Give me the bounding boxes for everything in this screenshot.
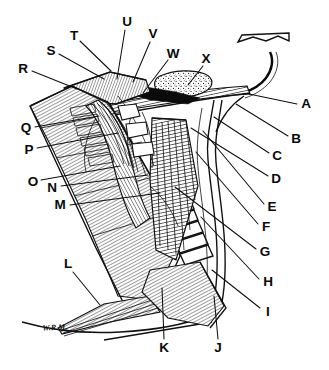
anatomical-figure: A B C D E F G H I J K L M N O P Q R S T … bbox=[0, 0, 329, 370]
label-F: F bbox=[262, 219, 270, 234]
label-O: O bbox=[28, 174, 39, 189]
label-J: J bbox=[214, 340, 222, 355]
label-N: N bbox=[47, 180, 57, 195]
highlight-patch-3 bbox=[132, 142, 154, 157]
label-G: G bbox=[260, 244, 271, 259]
label-L: L bbox=[64, 256, 72, 271]
label-C: C bbox=[272, 148, 282, 163]
label-T: T bbox=[70, 28, 79, 43]
label-E: E bbox=[267, 199, 276, 214]
label-Q: Q bbox=[21, 120, 32, 135]
label-P: P bbox=[24, 142, 33, 157]
label-B: B bbox=[291, 131, 301, 146]
label-S: S bbox=[46, 43, 55, 58]
label-M: M bbox=[54, 197, 65, 212]
label-I: I bbox=[266, 304, 270, 319]
label-V: V bbox=[148, 26, 157, 41]
label-D: D bbox=[271, 171, 281, 186]
label-H: H bbox=[263, 274, 273, 289]
label-K: K bbox=[159, 340, 169, 355]
label-A: A bbox=[301, 96, 311, 111]
artist-signature: W.R.M. bbox=[42, 322, 67, 332]
label-X: X bbox=[201, 51, 210, 66]
anatomy-diagram-svg: A B C D E F G H I J K L M N O P Q R S T … bbox=[0, 0, 329, 370]
label-W: W bbox=[167, 46, 180, 61]
label-U: U bbox=[122, 14, 132, 29]
label-R: R bbox=[18, 61, 28, 76]
